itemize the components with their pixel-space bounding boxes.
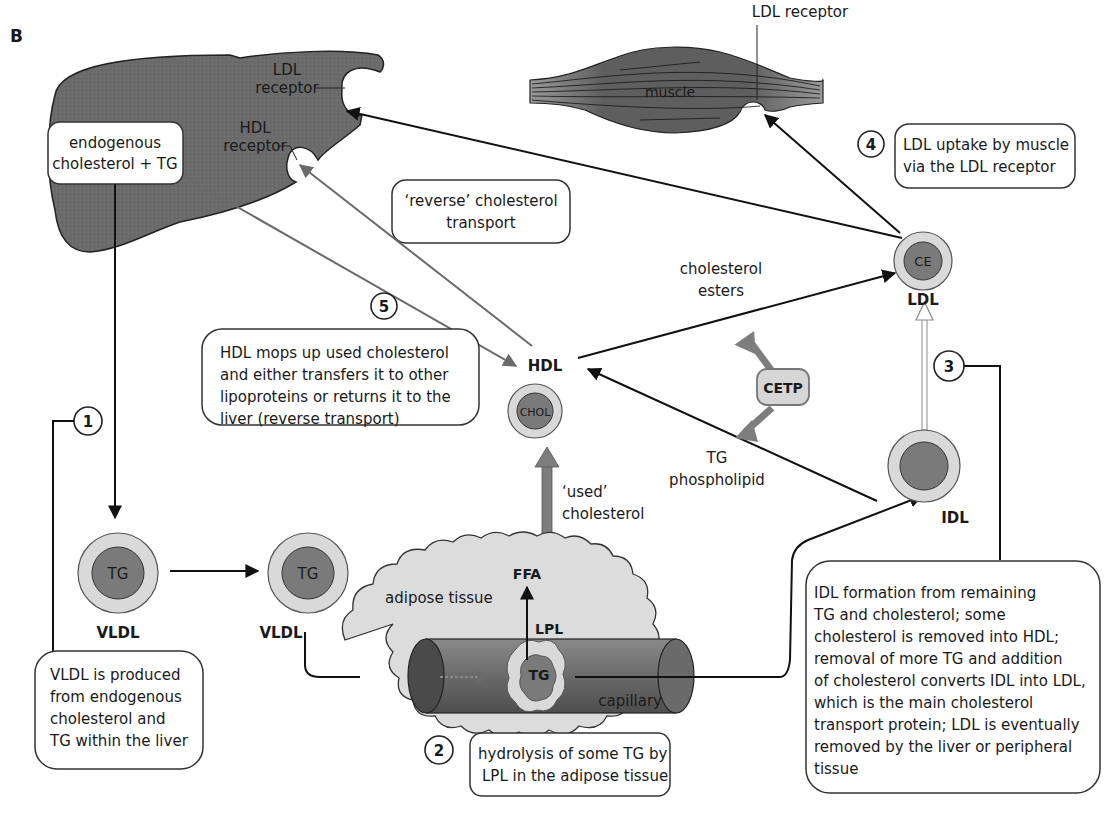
step-4-box	[895, 124, 1075, 188]
step-3-line5: of cholesterol converts IDL into LDL,	[814, 672, 1086, 690]
step-3-line2: TG and cholesterol; some	[813, 606, 1006, 624]
reverse-transport-box	[392, 180, 570, 243]
step-2-box	[470, 733, 670, 796]
step-3-number: 3	[944, 358, 954, 376]
hdl-receptor-label-line1: HDL	[239, 119, 271, 137]
panel-label: B	[10, 26, 23, 46]
reverse-transport-line1: ‘reverse’ cholesterol	[404, 192, 557, 210]
step-1-connector	[53, 421, 74, 652]
step-2-line1: hydrolysis of some TG by	[478, 745, 667, 763]
step-3-line1: IDL formation from remaining	[814, 584, 1036, 602]
ldl-label: LDL	[907, 291, 939, 309]
capillary-tg-label: TG	[528, 667, 549, 683]
used-cholesterol-line1: ‘used’	[562, 483, 608, 501]
muscle-label: muscle	[645, 84, 695, 100]
step-5-line2: and either transfers it to other	[220, 366, 449, 384]
capillary-label: capillary	[598, 692, 662, 710]
lipoprotein-metabolism-diagram: B LDL receptor HDL receptor endogenous c…	[0, 0, 1117, 823]
tg-phospholipid-line2: phospholipid	[669, 471, 765, 489]
step-1-line4: TG within the liver	[49, 732, 189, 750]
hdl-receptor-label-line2: receptor	[223, 137, 287, 155]
reverse-transport-line2: transport	[446, 214, 515, 232]
used-cholesterol-line2: cholesterol	[562, 505, 644, 523]
step-1-line2: from endogenous	[50, 688, 182, 706]
endogenous-box-line1: endogenous	[69, 134, 161, 152]
idl-particle	[888, 430, 960, 502]
arrow-ldl-to-muscle	[765, 115, 900, 233]
step-4-line2: via the LDL receptor	[903, 158, 1057, 176]
arrow-idl-to-ldl	[916, 302, 933, 430]
tg-phospholipid-line1: TG	[706, 449, 728, 467]
step-5-line1: HDL mops up used cholesterol	[220, 344, 449, 362]
step-4-number: 4	[866, 136, 876, 154]
step-3-connector	[964, 366, 1000, 560]
muscle-ldl-receptor-label: LDL receptor	[752, 3, 849, 21]
step-4-line1: LDL uptake by muscle	[903, 136, 1069, 154]
ldl-receptor-label-line1: LDL	[273, 61, 302, 79]
step-3-line4: removal of more TG and addition	[814, 650, 1062, 668]
line-vldl-to-capillary	[305, 632, 360, 677]
step-5-line3: lipoproteins or returns it to the	[220, 388, 451, 406]
ldl-receptor-label-line2: receptor	[255, 79, 319, 97]
cetp-label: CETP	[763, 380, 803, 396]
step-3-line3: cholesterol is removed into HDL;	[814, 628, 1059, 646]
hdl-core-label: CHOL	[520, 406, 552, 419]
step-5-line4: liver (reverse transport)	[220, 410, 400, 428]
cholesterol-esters-line1: cholesterol	[680, 260, 762, 278]
vldl-2-core-label: TG	[297, 565, 319, 583]
step-1-line1: VLDL is produced	[50, 666, 181, 684]
step-3-line9: tissue	[814, 760, 858, 778]
vldl-1-core-label: TG	[107, 565, 129, 583]
vldl-2-label: VLDL	[259, 624, 303, 642]
cholesterol-esters-line2: esters	[698, 282, 744, 300]
ffa-label: FFA	[513, 566, 542, 582]
step-3-line7: transport protein; LDL is eventually	[814, 716, 1080, 734]
step-2-line2: LPL in the adipose tissue	[482, 767, 668, 785]
hdl-label: HDL	[528, 357, 563, 375]
step-3-line8: removed by the liver or peripheral	[814, 738, 1072, 756]
step-1-line3: cholesterol and	[50, 710, 165, 728]
endogenous-source-box	[48, 122, 183, 184]
step-1-number: 1	[83, 413, 93, 431]
lpl-label: LPL	[535, 621, 563, 637]
step-3-line6: which is the main cholesterol	[814, 694, 1033, 712]
adipose-label: adipose tissue	[385, 589, 493, 607]
step-5-number: 5	[379, 298, 389, 316]
step-2-number: 2	[434, 742, 444, 760]
ldl-core-label: CE	[914, 254, 931, 269]
endogenous-box-line2: cholesterol + TG	[52, 155, 177, 173]
idl-label: IDL	[941, 509, 969, 527]
vldl-1-label: VLDL	[96, 624, 140, 642]
